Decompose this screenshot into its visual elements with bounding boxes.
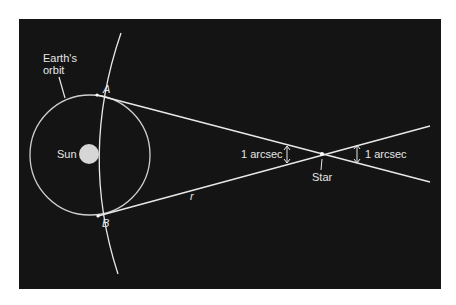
angle-label-left: 1 arcsec — [241, 148, 283, 160]
star-dot — [320, 152, 324, 156]
orbit-label-line2: orbit — [43, 64, 64, 76]
angle-label-right: 1 arcsec — [365, 148, 407, 160]
point-a-label: A — [103, 83, 110, 95]
sun-label: Sun — [57, 148, 77, 160]
orbit-leader — [59, 77, 65, 98]
earth-path-arc — [99, 33, 121, 274]
angle-arrow-left-icon — [284, 146, 290, 163]
star-leader — [321, 159, 322, 170]
sightline-a — [97, 95, 430, 182]
angle-arrow-right-icon — [354, 145, 360, 163]
point-b-label: B — [102, 217, 109, 229]
distance-label: r — [190, 190, 194, 202]
point-b-dot — [96, 214, 99, 217]
star-label: Star — [312, 171, 332, 183]
sun-disc — [79, 144, 99, 164]
point-a-dot — [95, 93, 98, 96]
orbit-label-line1: Earth's — [43, 52, 77, 64]
